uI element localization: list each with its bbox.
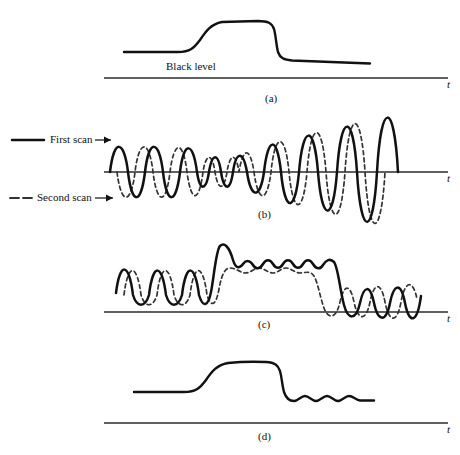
legend-label-second-scan: Second scan xyxy=(37,191,92,203)
panel-c xyxy=(104,245,448,319)
panel-c-first-scan-waveform xyxy=(116,245,421,319)
legend-first-scan-arrowhead xyxy=(104,137,111,144)
panel-b-caption: (b) xyxy=(258,208,271,220)
panel-b-second-scan-waveform xyxy=(117,124,385,224)
panel-b-axis-label: t xyxy=(447,172,450,184)
panel-b xyxy=(104,118,448,224)
legend-second-scan-arrowhead xyxy=(106,195,113,202)
panel-a xyxy=(104,21,448,78)
panel-d-caption: (d) xyxy=(258,430,271,442)
waveform-figure xyxy=(0,0,460,455)
panel-d-waveform xyxy=(134,362,374,401)
black-level-label: Black level xyxy=(166,60,216,72)
panel-d-axis-label: t xyxy=(447,423,450,435)
panel-a-axis-label: t xyxy=(447,78,450,90)
panel-c-axis-label: t xyxy=(447,312,450,324)
panel-a-waveform xyxy=(124,21,370,64)
panel-a-caption: (a) xyxy=(265,92,277,104)
panel-c-caption: (c) xyxy=(258,318,270,330)
panel-d xyxy=(104,362,448,423)
legend-label-first-scan: First scan xyxy=(50,133,92,145)
panel-c-second-scan-waveform xyxy=(124,268,417,318)
